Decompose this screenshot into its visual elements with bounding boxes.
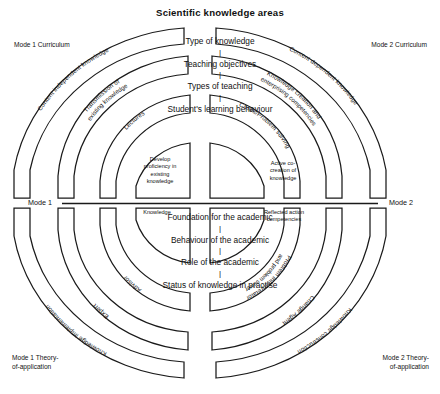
caption-mode2-curriculum: Mode 2 Curriculum [371,41,427,50]
center-column-top: Type of knowledge | Teaching objectives … [158,36,282,114]
center-item-role-academic: Role of the academic [155,257,285,268]
caption-mode1-curriculum: Mode 1 Curriculum [14,41,70,50]
center-separator: | [155,223,285,235]
axis-label-mode2: Mode 2 [389,198,413,207]
center-item-status-knowledge-practise: Status of knowledge in practise [155,280,285,291]
center-separator: | [158,69,282,81]
center-item-student-learning-behaviour: Student's learning behaviour [158,104,282,115]
page-title: Scientific knowledge areas [0,7,440,18]
diagram-root: Scientific knowledge areas [0,0,440,394]
center-separator: | [158,92,282,104]
center-separator: | [155,268,285,280]
center-item-type-of-knowledge: Type of knowledge [158,36,282,47]
axis-label-mode1: Mode 1 [28,198,52,207]
center-column-bottom: Foundation for the academic | Behaviour … [155,212,285,290]
center-item-teaching-objectives: Teaching objectives [158,59,282,70]
arc-segment-tr-core [210,143,264,198]
caption-mode1-theory: Mode 1 Theory-of-application [12,354,58,372]
center-item-behaviour-academic: Behaviour of the academic [155,235,285,246]
core-label-bottom-left: Knowledge [134,209,180,216]
core-label-bottom-right: Reflected action competencies [262,209,306,224]
center-separator: | [155,245,285,257]
caption-mode2-theory: Mode 2 Theory-of-application [383,354,429,372]
center-item-types-of-teaching: Types of teaching [158,81,282,92]
core-label-top-left: Develop proficiency in existing knowledg… [140,156,180,185]
center-separator: | [158,47,282,59]
core-label-top-right: Active co-creation of knowledge [262,160,304,182]
